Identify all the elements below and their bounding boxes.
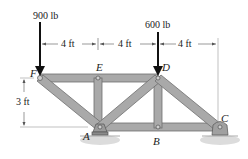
- truss-diagram: 900 lb 600 lb 4 ft 4 ft 4 ft 3 ft F E D …: [0, 0, 248, 159]
- member-dc: [155, 75, 221, 130]
- dim-label-vertical: 3 ft: [16, 96, 30, 107]
- load-label-600: 600 lb: [145, 19, 170, 30]
- dim-label-1: 4 ft: [61, 38, 75, 49]
- member-ad: [97, 75, 161, 130]
- joint-label-a: A: [82, 130, 90, 142]
- joint-label-d: D: [161, 61, 170, 73]
- load-label-900: 900 lb: [33, 10, 58, 21]
- joint-label-c: C: [221, 112, 229, 124]
- joint-label-b: B: [153, 135, 160, 147]
- dim-label-2: 4 ft: [118, 38, 132, 49]
- dim-label-3: 4 ft: [178, 38, 192, 49]
- member-fa: [37, 75, 103, 130]
- joint-label-e: E: [95, 61, 103, 73]
- truss-members: [37, 74, 221, 131]
- joint-label-f: F: [29, 67, 37, 79]
